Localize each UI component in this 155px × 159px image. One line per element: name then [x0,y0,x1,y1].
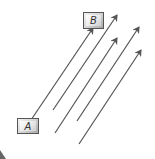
arrow-5 [79,50,141,144]
box-a-label: A [25,121,32,132]
arrow-4 [77,27,139,121]
box-b: B [83,12,104,29]
parallel-arrows [0,0,155,159]
arrow-2 [53,15,117,110]
box-a: A [17,118,39,134]
arrow-1 [31,28,93,120]
box-b-label: B [90,15,97,26]
corner-mark [0,150,6,159]
arrow-3 [55,38,117,133]
